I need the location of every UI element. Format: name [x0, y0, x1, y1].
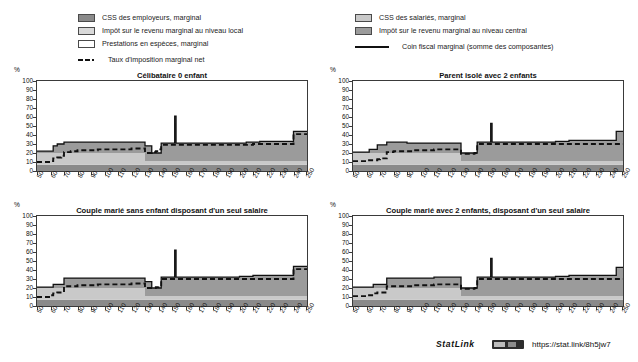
x-axis: 5060708090100110120130140150160170180190… — [36, 172, 308, 198]
legend-item-label: Prestations en espèces, marginal — [102, 40, 208, 48]
x-axis: 5060708090100110120130140150160170180190… — [352, 307, 624, 333]
legend-column-left: CSS des employeurs, marginalImpôt sur le… — [78, 12, 243, 67]
x-axis-tick-label: 230 — [279, 302, 290, 314]
x-axis: 5060708090100110120130140150160170180190… — [352, 172, 624, 198]
plot-area — [36, 80, 308, 172]
x-axis-tick-label: 190 — [541, 167, 552, 179]
x-axis-tick-label: 130 — [460, 167, 471, 179]
y-axis-tick-label: 100 — [338, 78, 349, 84]
y-axis-tick-label: 30 — [26, 141, 33, 147]
x-axis-tick-label: 150 — [171, 167, 182, 179]
y-axis-unit-label: % — [14, 201, 20, 208]
x-axis-tick-label: 250 — [621, 167, 632, 179]
x-axis-tick-label: 50 — [352, 170, 361, 179]
figure-footer: StatLink https://stat.link/8h5jw7 — [0, 337, 638, 355]
x-axis-tick-label: 230 — [279, 167, 290, 179]
figure-root: CSS des employeurs, marginalImpôt sur le… — [0, 0, 638, 362]
x-axis-tick-label: 60 — [50, 170, 59, 179]
y-axis-tick-label: 80 — [26, 231, 33, 237]
panel-title: Couple marié avec 2 enfants, disposant d… — [352, 206, 624, 215]
y-axis-tick-label: 70 — [342, 240, 349, 246]
x-axis-tick-label: 250 — [305, 167, 316, 179]
y-axis-unit-label: % — [330, 201, 336, 208]
y-axis-tick-label: 30 — [26, 276, 33, 282]
legend-item-label: Impôt sur le revenu marginal au niveau l… — [102, 27, 243, 35]
cropped-caption-strip — [0, 0, 638, 6]
x-axis-tick-label: 170 — [514, 302, 525, 314]
y-axis-tick-label: 60 — [342, 249, 349, 255]
y-axis-tick-label: 40 — [26, 267, 33, 273]
x-axis-tick-label: 250 — [621, 302, 632, 314]
x-axis-tick-label: 90 — [406, 305, 415, 314]
x-axis-tick-label: 150 — [487, 167, 498, 179]
legend-item-label: CSS des employeurs, marginal — [102, 14, 201, 22]
panel-title: Couple marié sans enfant disposant d'un … — [36, 206, 308, 215]
legend-item-label: Impôt sur le revenu marginal au niveau c… — [379, 27, 527, 35]
y-axis-tick-label: 80 — [26, 96, 33, 102]
y-axis-tick-label: 70 — [342, 105, 349, 111]
legend-item-left-1: Impôt sur le revenu marginal au niveau l… — [78, 25, 243, 36]
y-axis-tick-label: 90 — [342, 222, 349, 228]
y-axis: 0102030405060708090100 — [330, 80, 352, 172]
plot-area — [36, 215, 308, 307]
statlink-url[interactable]: https://stat.link/8h5jw7 — [532, 340, 611, 349]
panel-title: Célibataire 0 enfant — [36, 71, 308, 80]
x-axis-tick-label: 190 — [225, 167, 236, 179]
x-axis-tick-label: 170 — [198, 167, 209, 179]
legend-item-label: CSS des salariés, marginal — [379, 14, 466, 22]
x-axis-tick-label: 130 — [144, 167, 155, 179]
legend-item-left-3: Taux d'imposition marginal net — [78, 54, 243, 65]
x-axis-tick-label: 90 — [90, 170, 99, 179]
statlink-barcode-icon — [492, 340, 524, 349]
y-axis-tick-label: 30 — [342, 276, 349, 282]
x-axis-tick-label: 110 — [117, 167, 127, 179]
y-axis-tick-label: 50 — [26, 123, 33, 129]
legend-dashed-line-icon — [78, 56, 95, 64]
x-axis-tick-label: 110 — [433, 167, 443, 179]
y-axis-tick-label: 10 — [342, 294, 349, 300]
plot-area — [352, 215, 624, 307]
x-axis-tick-label: 80 — [393, 305, 402, 314]
x-axis-tick-label: 190 — [541, 302, 552, 314]
y-axis-tick-label: 50 — [26, 258, 33, 264]
x-axis-tick-label: 80 — [77, 305, 86, 314]
y-axis-tick-label: 90 — [342, 87, 349, 93]
plot-area-wrapper — [36, 80, 308, 172]
legend-item-right-1: Impôt sur le revenu marginal au niveau c… — [355, 25, 553, 36]
y-axis-unit-label: % — [330, 66, 336, 73]
y-axis-tick-label: 90 — [26, 87, 33, 93]
x-axis-tick-label: 50 — [352, 305, 361, 314]
legend-swatch-icon — [78, 27, 95, 35]
x-axis-tick-label: 210 — [568, 302, 579, 314]
y-axis-tick-label: 70 — [26, 105, 33, 111]
y-axis-tick-label: 70 — [26, 240, 33, 246]
y-axis-tick-label: 60 — [26, 249, 33, 255]
plot-area-wrapper — [352, 215, 624, 307]
x-axis-tick-label: 110 — [433, 302, 443, 314]
legend-item-left-0: CSS des employeurs, marginal — [78, 12, 243, 23]
x-axis-tick-label: 60 — [50, 305, 59, 314]
legend-item-left-2: Prestations en espèces, marginal — [78, 38, 243, 49]
x-axis-tick-label: 110 — [117, 302, 127, 314]
legend-solid-line-icon — [355, 43, 389, 51]
x-axis-tick-label: 50 — [36, 170, 45, 179]
plot-area-wrapper — [352, 80, 624, 172]
y-axis-tick-label: 100 — [22, 78, 33, 84]
plot-area — [352, 80, 624, 172]
x-axis-tick-label: 150 — [171, 302, 182, 314]
legend-item-right-0: CSS des salariés, marginal — [355, 12, 553, 23]
x-axis-tick-label: 70 — [63, 305, 72, 314]
x-axis-tick-label: 210 — [568, 167, 579, 179]
legend-swatch-icon — [78, 40, 95, 48]
statlink-label: StatLink — [436, 339, 475, 349]
x-axis-tick-label: 90 — [90, 305, 99, 314]
legend-item-label: Taux d'imposition marginal net — [108, 56, 204, 64]
x-axis-tick-label: 230 — [595, 302, 606, 314]
x-axis-tick-label: 60 — [366, 170, 375, 179]
y-axis-tick-label: 80 — [342, 231, 349, 237]
y-axis-tick-label: 10 — [26, 159, 33, 165]
y-axis-tick-label: 90 — [26, 222, 33, 228]
y-axis-tick-label: 50 — [342, 258, 349, 264]
y-axis: 0102030405060708090100 — [14, 80, 36, 172]
y-axis: 0102030405060708090100 — [330, 215, 352, 307]
